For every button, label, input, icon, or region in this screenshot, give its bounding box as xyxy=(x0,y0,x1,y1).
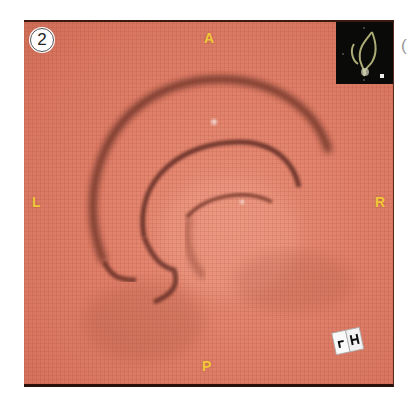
panel-number: 2 xyxy=(37,30,46,50)
colon-overview-inset xyxy=(336,22,393,84)
orientation-cube-icon xyxy=(331,325,365,359)
colon-3d-thumbnail xyxy=(336,22,393,84)
orientation-anterior-label: A xyxy=(204,30,214,46)
orientation-right-label: R xyxy=(375,194,385,210)
orientation-posterior-label: P xyxy=(202,358,211,374)
adjacent-panel-badge-fragment: ( xyxy=(401,36,407,56)
panel-number-badge: 2 xyxy=(30,28,54,52)
orientation-left-label: L xyxy=(32,194,41,210)
position-marker-icon xyxy=(380,74,384,78)
